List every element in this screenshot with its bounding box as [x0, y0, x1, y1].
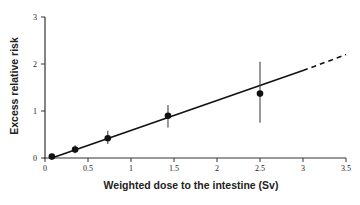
- y-tick-label: 3: [33, 13, 37, 22]
- x-tick-label: 3.5: [341, 164, 351, 173]
- x-tick-label: 0.5: [83, 164, 93, 173]
- data-points: [49, 90, 264, 160]
- data-point: [165, 112, 172, 119]
- x-axis-title: Weighted dose to the intestine (Sv): [104, 179, 279, 191]
- y-tick-label: 2: [33, 60, 37, 69]
- x-tick-label: 3: [301, 164, 305, 173]
- y-axis-ticks: 0123: [33, 13, 45, 163]
- data-point: [104, 135, 111, 142]
- y-tick-label: 1: [33, 107, 37, 116]
- fit-lines: [52, 55, 346, 158]
- y-axis-title: Excess relative risk: [8, 37, 20, 135]
- fit-line: [52, 71, 303, 158]
- x-tick-label: 2.5: [255, 164, 265, 173]
- axes: [44, 17, 346, 159]
- error-bars: [52, 62, 260, 158]
- x-tick-label: 1: [129, 164, 133, 173]
- data-point: [72, 146, 79, 153]
- y-tick-label: 0: [33, 154, 37, 163]
- x-tick-label: 0: [43, 164, 47, 173]
- data-point: [257, 90, 264, 97]
- extrapolated-fit-line: [303, 55, 346, 71]
- data-point: [49, 153, 56, 160]
- x-axis-ticks: 00.511.522.533.5: [43, 158, 351, 173]
- x-tick-label: 2: [215, 164, 219, 173]
- x-tick-label: 1.5: [169, 164, 179, 173]
- chart: 00.511.522.533.5 0123 Weighted dose to t…: [0, 0, 360, 205]
